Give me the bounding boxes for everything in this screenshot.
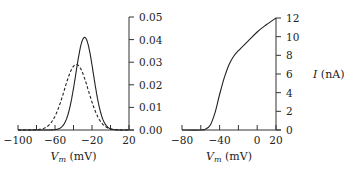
y-axis-label: I (nA) [312,68,344,81]
x-tick-label: −20 [81,134,103,146]
y-tick-label: 0.01 [139,101,162,113]
y-tick-label: 0.03 [139,56,162,68]
x-tick-label: 20 [269,134,282,146]
x-axis-label: Vm (mV) [50,150,96,164]
y-tick-label: 0.04 [139,34,163,46]
series-dashed [18,65,129,131]
x-tick-label: −60 [44,134,66,146]
y-tick-label: 0.00 [139,124,162,136]
chart-right: −80−40020024681012Vm (mV)I (nA) [171,12,345,164]
y-tick-label: 4 [286,87,293,99]
x-axis-label: Vm (mV) [206,150,252,164]
series-I-V [182,18,276,130]
chart-left: −100−60−20200.000.010.020.030.040.05Vm (… [4,11,163,164]
chart-canvas: −100−60−20200.000.010.020.030.040.05Vm (… [0,0,351,183]
y-tick-label: 2 [286,105,293,117]
y-tick-label: 10 [286,31,299,43]
x-tick-label: 0 [254,134,261,146]
x-tick-label: 20 [122,134,135,146]
series-solid [18,37,129,130]
x-tick-label: −80 [171,134,193,146]
y-tick-label: 0.02 [139,79,162,91]
x-tick-label: −100 [4,134,33,146]
y-tick-label: 0.05 [139,11,162,23]
y-tick-label: 8 [286,49,293,61]
y-tick-label: 0 [286,124,293,136]
x-tick-label: −40 [209,134,231,146]
y-tick-label: 6 [286,68,293,80]
y-tick-label: 12 [286,12,299,24]
